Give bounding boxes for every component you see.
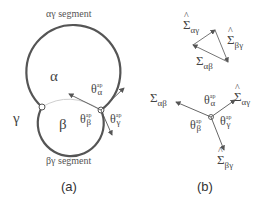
sigma-bg-hat-label: Σβγ xyxy=(227,33,243,50)
phase-gamma-label: γ xyxy=(13,111,20,126)
theta-gamma-label: θapγ xyxy=(110,112,120,127)
star-theta-alpha-label: θapα xyxy=(204,93,215,108)
sigma-ag-hat-label: Σαγ xyxy=(183,18,199,35)
bg-segment-label: βγ segment xyxy=(46,156,91,166)
beta-boundary xyxy=(38,107,104,156)
phase-alpha-label: α xyxy=(50,69,58,84)
tangent-ag-arrow xyxy=(101,88,124,110)
star-theta-gamma-label: θapγ xyxy=(220,114,230,129)
star-sigma-ag-label: Σαγ xyxy=(234,90,250,107)
sigma-ab-label: Σαβ xyxy=(196,54,213,71)
theta-alpha-label: θapα xyxy=(91,82,102,97)
star-sigma-bg-label: Σβγ xyxy=(217,153,233,170)
caption-b: (b) xyxy=(197,180,213,193)
alpha-beta-interface xyxy=(42,99,101,110)
theta-beta-label: θapβ xyxy=(80,112,91,127)
caption-a: (a) xyxy=(61,180,77,193)
alpha-boundary xyxy=(26,25,120,110)
star-theta-beta-label: θapβ xyxy=(190,118,201,133)
star-sigma-ab-label: Σαβ xyxy=(150,91,167,108)
phase-beta-label: β xyxy=(59,117,67,132)
ag-segment-label: αγ segment xyxy=(46,9,91,19)
junction-left xyxy=(39,104,45,110)
